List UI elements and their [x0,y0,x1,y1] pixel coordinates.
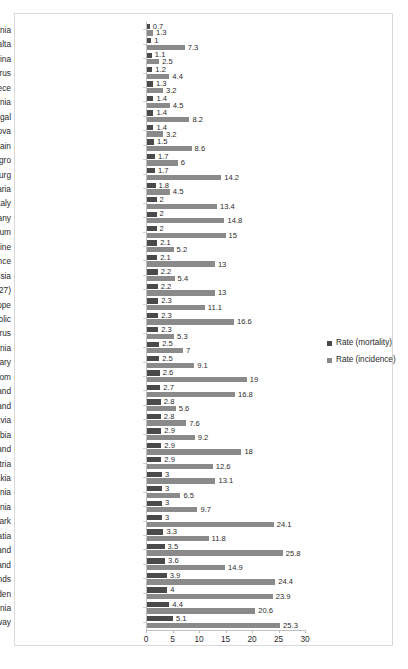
y-axis-tick [143,217,146,218]
category-label: Cyprus [0,69,15,77]
bar-incidence [146,189,170,194]
y-axis-tick [143,289,146,290]
bar-mortality [146,342,159,347]
bar-incidence [146,522,274,527]
bar-mortality [146,269,158,274]
bar-incidence [146,175,221,180]
bar-mortality [146,472,162,477]
bar-value-mortality: 3.6 [168,557,179,565]
bar-value-mortality: 2.9 [164,427,175,435]
x-axis-tick [305,630,306,633]
legend-swatch-icon [327,341,332,346]
bar-incidence [146,59,159,64]
category-label: Norway [0,618,15,626]
bar-mortality [146,428,161,433]
bar-mortality [146,356,159,361]
bar-mortality [146,544,165,549]
bar-mortality [146,558,165,563]
bar-value-mortality: 4.4 [172,601,183,609]
bar-value-mortality: 3 [165,499,169,507]
y-axis-tick [143,434,146,435]
category-label-holder: Norway [15,614,146,630]
y-axis-tick [143,622,146,623]
category-label: Malta [0,40,15,48]
legend-item[interactable]: Rate (mortality) [327,339,397,347]
plot-area: Albania0.71.3Malta17.3Bosnia and Herzego… [15,14,392,645]
bar-mortality [146,327,158,332]
category-label: Italy [0,199,15,207]
bar-mortality [146,529,163,534]
bar-mortality [146,255,157,260]
bar-value-mortality: 2.8 [164,398,175,406]
category-label: Montenegro [0,156,15,164]
bar-mortality [146,81,153,86]
bar-incidence [146,623,280,628]
category-label: Slovenia [0,604,15,612]
category-label: Moldova [0,127,15,135]
bar-mortality [146,139,154,144]
y-axis-tick [143,275,146,276]
bar-mortality [146,226,157,231]
x-axis-tick-label: 30 [300,635,309,643]
y-axis-tick [143,448,146,449]
category-label: Czech Republic [0,315,15,323]
bar-mortality [146,96,153,101]
bar-value-mortality: 2.8 [164,413,175,421]
bar-incidence [146,160,178,165]
bar-incidence [146,146,192,151]
y-axis-tick [143,232,146,233]
bar-value-mortality: 2 [160,225,164,233]
y-axis-tick [143,333,146,334]
y-axis-tick [143,506,146,507]
bar-value-mortality: 2.9 [164,442,175,450]
bar-incidence [146,392,235,397]
category-label: Iceland [0,561,15,569]
bar-row: Norway5.125.3 [15,614,392,630]
bar-value-mortality: 2 [160,210,164,218]
category-label: Croatia [0,532,15,540]
bar-value-mortality: 2.6 [163,369,174,377]
bar-value-mortality: 2.3 [161,297,172,305]
bar-incidence [146,507,197,512]
bar-mortality [146,573,167,578]
bar-incidence [146,493,180,498]
x-axis-tick [199,630,200,633]
y-axis-tick [143,463,146,464]
legend-item[interactable]: Rate (incidence) [327,356,397,364]
bar-incidence [146,218,224,223]
category-label: Lithuania [0,344,15,352]
category-label: Poland [0,402,15,410]
chart-frame: Albania0.71.3Malta17.3Bosnia and Herzego… [14,13,393,646]
bar-value-mortality: 2.2 [161,268,172,276]
category-label: Romania [0,98,15,106]
bar-value-mortality: 1.8 [159,182,170,190]
bar-value-mortality: 3.5 [168,543,179,551]
bar-mortality [146,486,162,491]
x-axis-tick [252,630,253,633]
bar-incidence [146,45,185,50]
bar-value-mortality: 2.2 [161,283,172,291]
category-label: Serbia [0,430,15,438]
y-axis-tick [143,58,146,59]
bar-mortality [146,284,158,289]
bar-incidence [146,377,247,382]
legend-label: Rate (incidence) [336,356,396,364]
bar-incidence [146,464,213,469]
bar-value-mortality: 1.7 [158,167,169,175]
bar-incidence [146,579,275,584]
category-label: Europe [0,300,15,308]
y-axis-tick [143,188,146,189]
bar-mortality [146,212,157,217]
legend-swatch-icon [327,358,332,363]
bar-value-incidence: 25.3 [283,622,298,630]
x-axis-tick-label: 0 [144,635,149,643]
bar-incidence [146,261,215,266]
bar-mortality [146,110,153,115]
bar-incidence [146,131,163,136]
bar-incidence [146,30,153,35]
bar-value-mortality: 3.3 [166,528,177,536]
bar-incidence [146,103,170,108]
bar-mortality [146,125,153,130]
y-axis-tick [143,44,146,45]
category-label: Spain [0,141,15,149]
